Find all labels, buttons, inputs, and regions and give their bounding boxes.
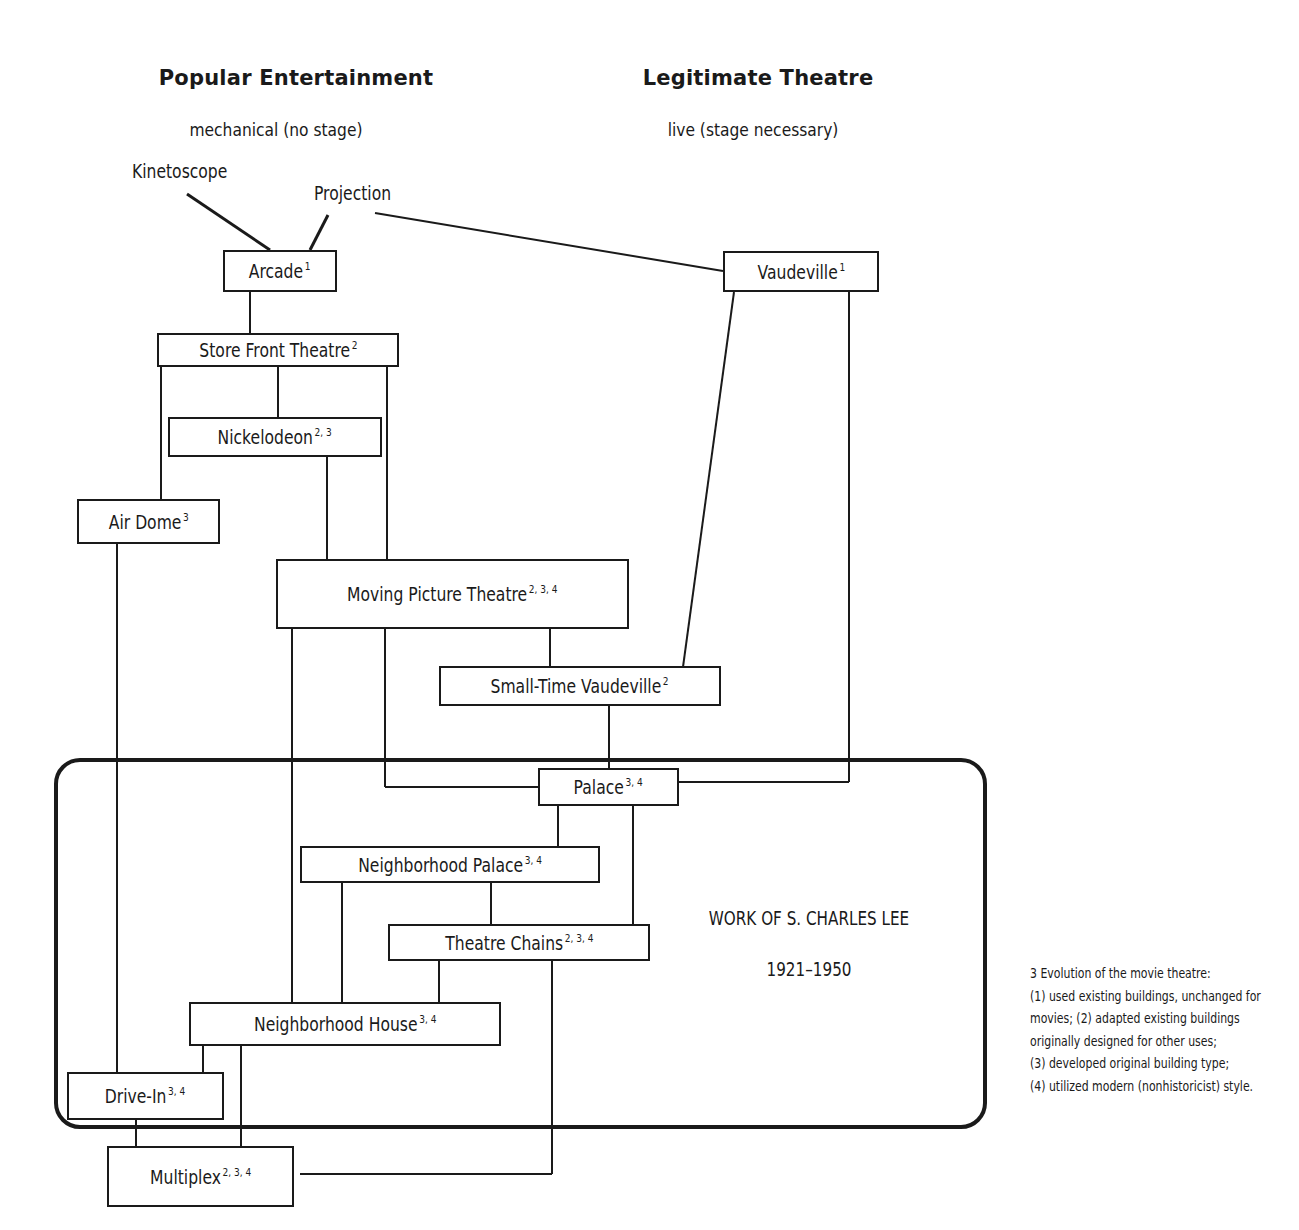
- node-moving-picture-theatre: Moving Picture Theatre2, 3, 4: [276, 559, 629, 629]
- projection-label: Projection: [314, 182, 391, 204]
- legitimate-theatre-heading: Legitimate Theatre: [643, 66, 874, 90]
- lee-region-years: 1921–1950: [767, 958, 852, 980]
- node-vaudeville: Vaudeville1: [723, 251, 879, 292]
- footnote-refs: 2: [663, 675, 669, 688]
- node-label: Neighborhood Palace: [358, 854, 523, 876]
- node-label: Store Front Theatre: [199, 339, 350, 361]
- mechanical-subheading: mechanical (no stage): [190, 119, 363, 140]
- kinetoscope-label: Kinetoscope: [132, 160, 227, 182]
- node-label: Theatre Chains: [445, 932, 563, 954]
- popular-entertainment-heading: Popular Entertainment: [159, 66, 433, 90]
- node-label: Multiplex: [150, 1166, 221, 1188]
- node-neighborhood-house: Neighborhood House3, 4: [189, 1002, 501, 1046]
- footnote-refs: 3, 4: [419, 1013, 436, 1026]
- footnote-refs: 2, 3, 4: [222, 1166, 251, 1179]
- node-drive-in: Drive-In3, 4: [67, 1072, 224, 1120]
- node-theatre-chains: Theatre Chains2, 3, 4: [388, 924, 650, 961]
- node-label: Small-Time Vaudeville: [491, 675, 662, 697]
- caption-line: originally designed for other uses;: [1030, 1030, 1248, 1053]
- node-neighborhood-palace: Neighborhood Palace3, 4: [300, 846, 600, 883]
- node-label: Palace: [574, 776, 624, 798]
- node-label: Neighborhood House: [254, 1013, 418, 1035]
- node-label: Drive-In: [105, 1085, 167, 1107]
- node-label: Arcade: [249, 260, 303, 282]
- node-palace: Palace3, 4: [538, 768, 679, 806]
- footnote-refs: 2, 3, 4: [529, 583, 558, 596]
- node-air-dome: Air Dome3: [77, 499, 220, 544]
- footnote-refs: 2, 3: [315, 426, 332, 439]
- caption-line: movies; (2) adapted existing buildings: [1030, 1007, 1248, 1030]
- figure-caption: 3 Evolution of the movie theatre: (1) us…: [1030, 962, 1299, 1097]
- node-label: Air Dome: [108, 511, 181, 533]
- caption-line: (1) used existing buildings, unchanged f…: [1030, 985, 1248, 1008]
- node-nickelodeon: Nickelodeon2, 3: [168, 417, 382, 457]
- node-label: Vaudeville: [757, 261, 837, 283]
- node-label: Nickelodeon: [218, 426, 313, 448]
- footnote-refs: 3, 4: [626, 776, 643, 789]
- caption-line: 3 Evolution of the movie theatre:: [1030, 962, 1248, 985]
- lee-region-title: WORK OF S. CHARLES LEE: [709, 907, 909, 929]
- footnote-refs: 3: [183, 511, 189, 524]
- theatre-evolution-diagram: Popular Entertainment mechanical (no sta…: [0, 0, 1299, 1230]
- caption-line: (3) developed original building type;: [1030, 1052, 1248, 1075]
- node-store-front-theatre: Store Front Theatre2: [157, 333, 399, 367]
- footnote-refs: 2, 3, 4: [564, 932, 593, 945]
- node-label: Moving Picture Theatre: [347, 583, 527, 605]
- footnote-refs: 2: [351, 339, 357, 352]
- node-small-time-vaudeville: Small-Time Vaudeville2: [439, 666, 721, 706]
- footnote-refs: 1: [305, 260, 311, 273]
- node-arcade: Arcade1: [223, 250, 337, 292]
- footnote-refs: 1: [839, 261, 845, 274]
- caption-line: (4) utilized modern (nonhistoricist) sty…: [1030, 1075, 1248, 1098]
- live-subheading: live (stage necessary): [668, 119, 839, 140]
- node-multiplex: Multiplex2, 3, 4: [107, 1146, 294, 1207]
- footnote-refs: 3, 4: [169, 1085, 186, 1098]
- footnote-refs: 3, 4: [525, 854, 542, 867]
